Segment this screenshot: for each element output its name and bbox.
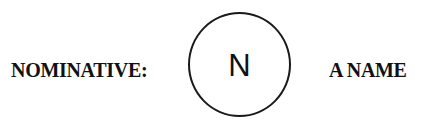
node-circle: N [188,12,291,117]
node-letter: N [228,50,250,81]
case-label: NOMINATIVE: [11,60,147,80]
meaning-label: A NAME [329,60,407,80]
